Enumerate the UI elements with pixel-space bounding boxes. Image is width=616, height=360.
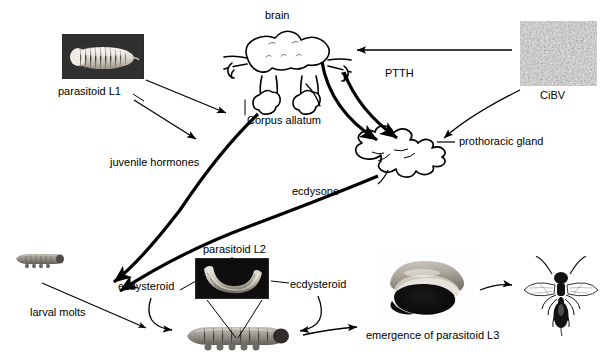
label-ecdysteroid-left: ecdysteroid (118, 281, 174, 292)
label-cibv: CiBV (540, 90, 565, 101)
label-parasitoid-l1: parasitoid L1 (58, 86, 121, 97)
label-prothoracic-gland: prothoracic gland (459, 136, 543, 147)
label-corpus-allatum: Corpus allatum (247, 115, 321, 126)
label-ecdysteroid-right: ecdysteroid (290, 279, 346, 290)
label-juvenile-hormones: juvenile hormones (110, 157, 199, 168)
label-parasitoid-l2: parasitoid L2 (203, 244, 266, 255)
label-larval-molts: larval molts (30, 307, 86, 318)
label-ecdysone: ecdysone (292, 186, 339, 197)
label-ptth: PTTH (385, 68, 414, 79)
figure-canvas: brain parasitoid L1 Corpus allatum PTTH … (0, 0, 616, 360)
organ-line-art (0, 0, 616, 360)
label-emergence-l3: emergence of parasitoid L3 (366, 330, 499, 341)
label-brain: brain (265, 10, 289, 21)
